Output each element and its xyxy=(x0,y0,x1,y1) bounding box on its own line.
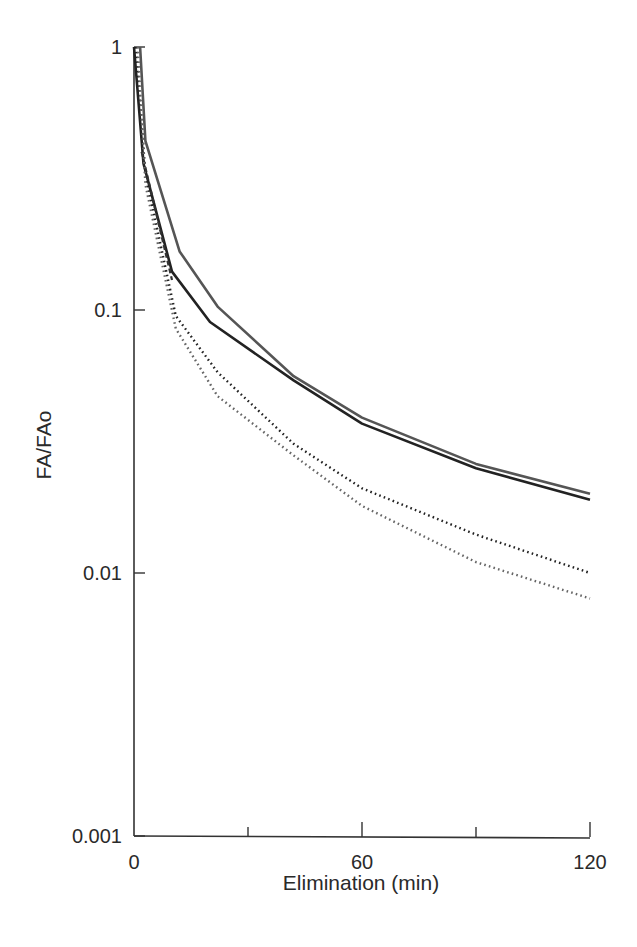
x-axis-title: Elimination (min) xyxy=(283,871,439,894)
series-dotted-dark xyxy=(136,47,590,573)
y-tick-label: 0.01 xyxy=(83,562,122,584)
x-tick-label: 120 xyxy=(573,851,606,873)
series-dotted-gray xyxy=(138,47,590,599)
y-tick-label: 0.001 xyxy=(72,825,122,847)
y-tick-label: 1 xyxy=(111,36,122,58)
series-solid-gray xyxy=(140,47,590,494)
y-axis-title: FA/FAo xyxy=(32,411,55,480)
x-tick-label: 0 xyxy=(128,851,139,873)
y-tick-label: 0.1 xyxy=(94,299,122,321)
series-solid-black xyxy=(134,47,590,500)
x-tick-label: 60 xyxy=(351,851,373,873)
line-chart: 10.10.010.001060120 Elimination (min) FA… xyxy=(0,0,637,947)
data-series xyxy=(134,47,590,599)
axis-labels: Elimination (min) FA/FAo xyxy=(32,411,439,894)
